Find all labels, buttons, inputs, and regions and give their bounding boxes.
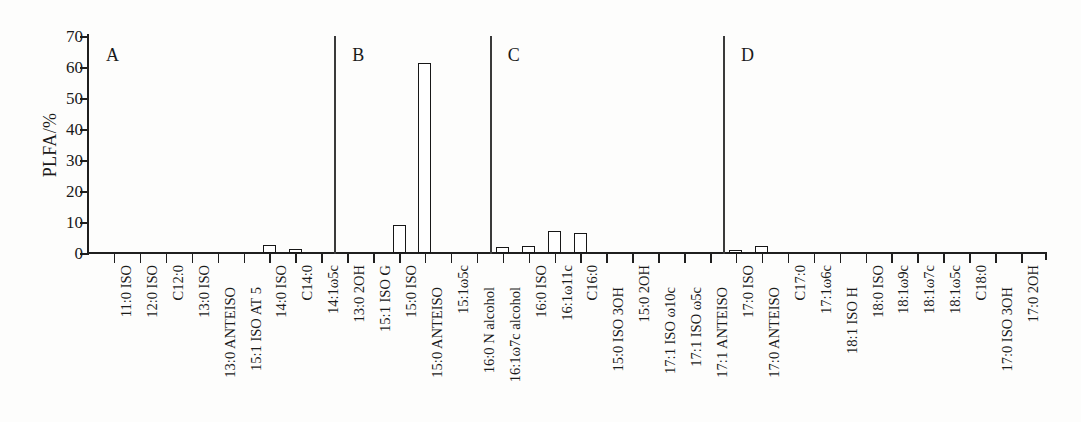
x-tick-mark xyxy=(399,254,401,263)
x-tick-mark xyxy=(244,254,246,263)
bar xyxy=(418,63,431,253)
y-tick-label: 50 xyxy=(66,90,83,107)
group-label-c: C xyxy=(508,46,520,64)
x-axis-label: 15:0 ISO 3OH xyxy=(611,287,626,372)
y-tick-label: 10 xyxy=(66,214,83,231)
x-tick-mark xyxy=(788,254,790,263)
x-tick-mark xyxy=(995,254,997,263)
y-tick-label: 60 xyxy=(66,59,83,76)
x-axis-label: 18:1ω5c xyxy=(948,265,963,314)
group-divider xyxy=(334,36,336,254)
x-axis-label: 18:1 ISO H xyxy=(845,287,860,354)
x-axis-label: 14:1ω5c xyxy=(326,265,341,314)
group-label-a: A xyxy=(106,46,119,64)
y-tick-label: 30 xyxy=(66,152,83,169)
y-axis-title: PLFA/% xyxy=(40,112,61,176)
x-axis-label: C17:0 xyxy=(793,265,808,300)
bar xyxy=(548,231,561,253)
x-axis-label: 17:1 ISO ω5c xyxy=(689,287,704,367)
y-tick-label: 0 xyxy=(75,245,84,262)
bar xyxy=(522,246,535,253)
x-axis-label: 13:0 ANTEISO xyxy=(223,287,238,378)
x-axis-label: C14:0 xyxy=(300,265,315,300)
x-axis-label-group: 11:0 ISO12:0 ISOC12:013:0 ISO13:0 ANTEIS… xyxy=(88,265,1047,415)
group-divider xyxy=(723,36,725,254)
x-axis-label: 16:1ω7c alcohol xyxy=(508,287,523,382)
x-axis-label: 17:1 ANTEISO xyxy=(715,287,730,378)
x-tick-mark xyxy=(632,254,634,263)
x-tick-mark xyxy=(269,254,271,263)
x-axis-label: 18:1ω9c xyxy=(896,265,911,314)
x-tick-mark xyxy=(373,254,375,263)
x-axis-label: 15:1 ISO G xyxy=(378,265,393,332)
bar xyxy=(755,246,768,253)
x-tick-mark xyxy=(606,254,608,263)
x-axis-label: 17:0 ANTEISO xyxy=(767,287,782,378)
y-tick-label: 20 xyxy=(66,183,83,200)
x-axis-label: 15:0 ISO xyxy=(404,265,419,318)
x-tick-mark xyxy=(140,254,142,263)
x-tick-mark xyxy=(762,254,764,263)
x-axis-label: 13:0 ISO xyxy=(197,265,212,318)
x-axis-label: 16:0 N alcohol xyxy=(482,287,497,373)
x-axis-label: 13:0 2OH xyxy=(352,265,367,323)
y-axis-title-container: PLFA/% xyxy=(0,36,40,253)
x-axis-label: 12:0 ISO xyxy=(145,265,160,318)
x-tick-mark xyxy=(114,254,116,263)
x-tick-mark xyxy=(295,254,297,263)
x-tick-mark xyxy=(917,254,919,263)
x-axis-label: 15:1ω5c xyxy=(456,265,471,314)
x-axis-label: C16:0 xyxy=(585,265,600,300)
x-tick-mark xyxy=(684,254,686,263)
x-axis-label: 14:0 ISO xyxy=(274,265,289,318)
x-axis-label: 17:0 2OH xyxy=(1026,265,1041,323)
bar xyxy=(393,225,406,253)
group-divider xyxy=(490,36,492,254)
y-tick-label: 40 xyxy=(66,121,83,138)
x-axis-label: 18:0 ISO xyxy=(871,265,886,318)
x-axis-label: 15:1 ISO AT 5 xyxy=(249,287,264,371)
x-tick-mark xyxy=(891,254,893,263)
x-tick-mark xyxy=(192,254,194,263)
chart-figure: PLFA/% 010203040506070 ABCD 11:0 ISO12:0… xyxy=(0,0,1081,422)
bar xyxy=(729,250,742,253)
x-tick-mark xyxy=(943,254,945,263)
x-axis-label: 15:0 2OH xyxy=(637,265,652,323)
x-tick-mark xyxy=(866,254,868,263)
x-axis-label: 17:0 ISO 3OH xyxy=(1000,287,1015,372)
x-tick-mark xyxy=(736,254,738,263)
x-tick-mark xyxy=(477,254,479,263)
x-tick-mark xyxy=(555,254,557,263)
bar xyxy=(263,245,276,253)
x-tick-group xyxy=(88,254,1047,263)
x-tick-mark xyxy=(425,254,427,263)
bar xyxy=(574,233,587,253)
x-axis-label: 11:0 ISO xyxy=(119,265,134,317)
x-axis-label: 17:1ω6c xyxy=(819,265,834,314)
y-tick-label: 70 xyxy=(66,28,83,45)
x-tick-mark xyxy=(658,254,660,263)
x-axis-label: C12:0 xyxy=(171,265,186,300)
x-tick-mark xyxy=(503,254,505,263)
x-tick-mark xyxy=(969,254,971,263)
x-tick-mark xyxy=(529,254,531,263)
x-tick-mark xyxy=(840,254,842,263)
x-axis-label: 17:0 ISO xyxy=(741,265,756,318)
bar xyxy=(289,249,302,253)
x-axis-label: 18:1ω7c xyxy=(922,265,937,314)
x-axis-label: 17:1 ISO ω10c xyxy=(663,287,678,374)
x-tick-mark xyxy=(814,254,816,263)
x-tick-mark xyxy=(710,254,712,263)
group-label-b: B xyxy=(352,46,364,64)
plot-area: 010203040506070 xyxy=(88,36,1047,253)
bar xyxy=(496,247,509,253)
x-axis-label: 15:0 ANTEISO xyxy=(430,287,445,378)
x-tick-mark xyxy=(347,254,349,263)
x-tick-mark xyxy=(580,254,582,263)
x-axis-label: 16:0 ISO xyxy=(534,265,549,318)
x-tick-mark xyxy=(321,254,323,263)
x-tick-mark xyxy=(451,254,453,263)
x-tick-mark xyxy=(218,254,220,263)
x-axis-label: C18:0 xyxy=(974,265,989,300)
x-tick-mark xyxy=(166,254,168,263)
